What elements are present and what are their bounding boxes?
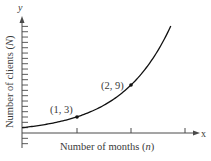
y-axis-arrow-icon: [20, 16, 25, 23]
y-axis: [20, 16, 29, 148]
x-axis-arrow-icon: [193, 131, 200, 136]
x-axis-label: Number of months (n): [60, 141, 155, 153]
y-axis-label: Number of clients (N): [4, 35, 16, 128]
exponential-curve: [22, 26, 171, 128]
y-axis-letter: y: [17, 2, 23, 13]
chart: (1, 3) (2, 9) y x Number of months (n) N…: [0, 0, 211, 161]
x-axis: [22, 128, 200, 136]
point-label-1-3: (1, 3): [50, 104, 73, 116]
point-label-2-9: (2, 9): [101, 80, 124, 92]
x-axis-letter: x: [201, 128, 206, 139]
y-axis-ticks: [22, 26, 28, 143]
point-1-3: [75, 115, 79, 119]
point-2-9: [129, 83, 133, 87]
